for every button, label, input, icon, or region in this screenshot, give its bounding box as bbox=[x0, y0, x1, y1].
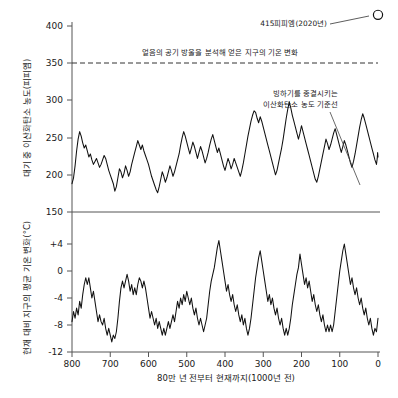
threshold-annotation-label: 얼음의 공기 방울을 분석해 얻은 지구의 기온 변화 bbox=[142, 48, 298, 57]
top-y-tick-400: 400 bbox=[46, 21, 63, 31]
chart-canvas: 400 350 300 250 200 150 대기 중 이산화탄소 농도(피피… bbox=[0, 0, 398, 398]
top-y-tick-300: 300 bbox=[46, 95, 63, 105]
top-y-tick-200: 200 bbox=[46, 170, 63, 180]
x-axis-title: 80만 년 전부터 현재까지(1000년 전) bbox=[157, 373, 295, 383]
x-tick-label-700: 700 bbox=[102, 359, 119, 369]
peak-annotation-label: 415피피엠(2020년) bbox=[260, 19, 327, 28]
baseline-annotation-line1: 빙하기를 종결시키는 bbox=[273, 89, 338, 98]
top-y-tick-250: 250 bbox=[46, 133, 63, 143]
bottom-y-axis-title: 현재 대비 지구의 평균 기온 변화(°C) bbox=[22, 221, 32, 355]
top-y-tick-350: 350 bbox=[46, 58, 63, 68]
x-tick-label-300: 300 bbox=[255, 359, 272, 369]
bottom-y-tick-0: 0 bbox=[57, 266, 63, 276]
co2-peak-marker bbox=[373, 10, 382, 19]
x-tick-label-800: 800 bbox=[63, 359, 80, 369]
x-tick-label-0: 0 bbox=[375, 359, 381, 369]
x-tick-label-100: 100 bbox=[331, 359, 348, 369]
baseline-annotation-line2: 이산화탄소 농도 기준선 bbox=[263, 100, 338, 109]
bottom-y-tick-minus4: -4 bbox=[54, 293, 63, 303]
bottom-y-tick-minus8: -8 bbox=[54, 320, 63, 330]
x-tick-label-600: 600 bbox=[140, 359, 157, 369]
bottom-y-tick-plus4: +4 bbox=[50, 239, 64, 249]
x-tick-label-400: 400 bbox=[216, 359, 233, 369]
x-tick-label-200: 200 bbox=[293, 359, 310, 369]
x-axis-tick-labels: 8007006005004003002001000 bbox=[63, 359, 381, 369]
top-y-tick-150: 150 bbox=[46, 207, 63, 217]
x-tick-label-500: 500 bbox=[178, 359, 195, 369]
bottom-y-tick-minus12: -12 bbox=[48, 347, 63, 357]
top-y-axis-title: 대기 중 이산화탄소 농도(피피엠) bbox=[22, 59, 32, 178]
climate-chart-figure: 400 350 300 250 200 150 대기 중 이산화탄소 농도(피피… bbox=[0, 0, 398, 398]
